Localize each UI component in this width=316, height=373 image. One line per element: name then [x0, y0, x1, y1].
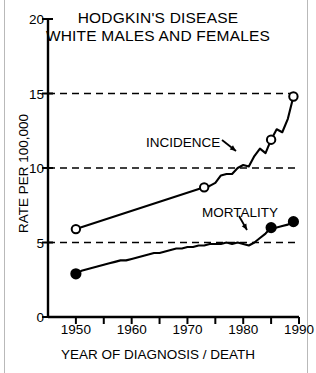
series-line-mortality	[71, 217, 298, 278]
x-tick-label-1960: 1960	[117, 322, 147, 337]
plot-area	[0, 0, 316, 373]
x-tick-label-1970: 1970	[172, 322, 202, 337]
x-tick-label-1980: 1980	[228, 322, 258, 337]
gridlines	[48, 94, 299, 243]
annotation-arrows	[222, 140, 247, 230]
x-tick-label-1950: 1950	[61, 322, 91, 337]
x-tick-label-1990: 1990	[284, 322, 314, 337]
chart-figure: HODGKIN'S DISEASE WHITE MALES AND FEMALE…	[0, 0, 316, 373]
series-line-incidence	[72, 92, 298, 233]
